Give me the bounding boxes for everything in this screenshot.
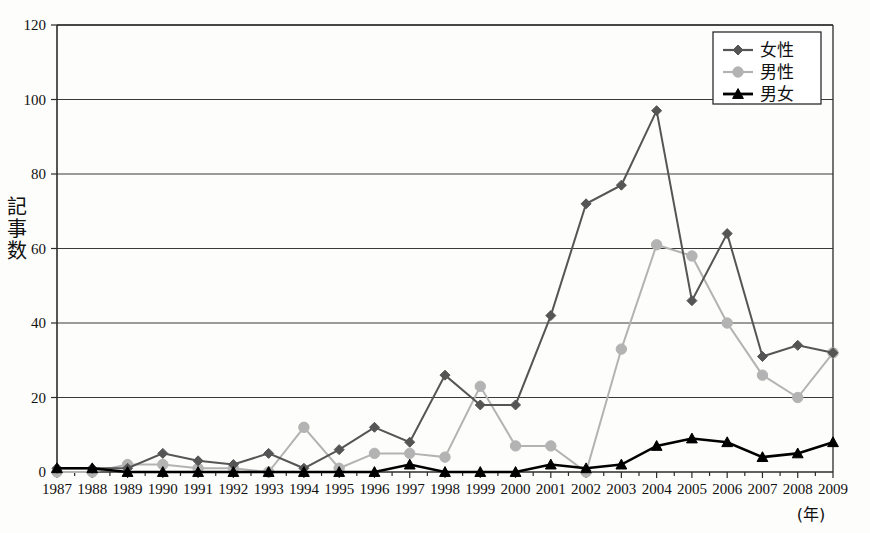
marker-女性-20 xyxy=(757,352,767,362)
marker-女性-21 xyxy=(793,340,803,350)
x-tick-label-2006: 2006 xyxy=(712,481,743,497)
marker-女性-6 xyxy=(264,448,274,458)
x-tick-label-1993: 1993 xyxy=(254,481,284,497)
x-tick-label-1997: 1997 xyxy=(395,481,426,497)
marker-女性-14 xyxy=(546,311,556,321)
y-tick-label-100: 100 xyxy=(24,92,47,108)
x-tick-label-1998: 1998 xyxy=(430,481,460,497)
x-axis-unit-label: (年) xyxy=(797,505,825,524)
x-tick-label-1989: 1989 xyxy=(113,481,143,497)
marker-男性-18 xyxy=(687,251,697,261)
marker-女性-8 xyxy=(334,445,344,455)
y-tick-label-0: 0 xyxy=(39,464,47,480)
y-tick-label-120: 120 xyxy=(24,17,47,33)
marker-女性-3 xyxy=(158,448,168,458)
series-line-女性 xyxy=(57,111,833,469)
legend-label-男女: 男女 xyxy=(760,84,794,104)
marker-女性-19 xyxy=(722,229,732,239)
marker-女性-13 xyxy=(511,400,521,410)
marker-男性-11 xyxy=(440,452,450,462)
marker-男性-13 xyxy=(510,441,520,451)
marker-女性-16 xyxy=(616,180,626,190)
x-tick-label-2003: 2003 xyxy=(606,481,636,497)
legend: 女性男性男女 xyxy=(713,32,821,104)
marker-女性-18 xyxy=(687,296,697,306)
marker-男性-9 xyxy=(369,448,379,458)
marker-男性-14 xyxy=(546,441,556,451)
marker-男性-17 xyxy=(651,240,661,250)
series-line-男性 xyxy=(57,245,833,472)
x-tick-label-1999: 1999 xyxy=(465,481,495,497)
x-tick-label-2004: 2004 xyxy=(642,481,673,497)
x-tick-label-2009: 2009 xyxy=(818,481,848,497)
marker-男性-21 xyxy=(793,392,803,402)
x-tick-label-1995: 1995 xyxy=(324,481,354,497)
x-tick-label-2008: 2008 xyxy=(783,481,813,497)
x-tick-label-2005: 2005 xyxy=(677,481,707,497)
x-tick-label-1994: 1994 xyxy=(289,481,320,497)
marker-男性-10 xyxy=(405,448,415,458)
x-tick-label-1987: 1987 xyxy=(42,481,73,497)
marker-女性-17 xyxy=(652,106,662,116)
x-tick-label-1992: 1992 xyxy=(218,481,248,497)
marker-男性-legend xyxy=(733,67,743,77)
x-tick-label-2007: 2007 xyxy=(747,481,778,497)
series-女性 xyxy=(52,106,838,474)
marker-男性-12 xyxy=(475,381,485,391)
y-tick-label-40: 40 xyxy=(31,315,46,331)
legend-label-女性: 女性 xyxy=(760,40,794,60)
marker-男性-20 xyxy=(757,370,767,380)
x-tick-label-2001: 2001 xyxy=(536,481,566,497)
y-tick-label-60: 60 xyxy=(31,241,46,257)
legend-label-男性: 男性 xyxy=(760,62,794,82)
marker-女性-10 xyxy=(405,437,415,447)
marker-男性-19 xyxy=(722,318,732,328)
y-tick-label-20: 20 xyxy=(31,390,46,406)
marker-男女-22 xyxy=(828,437,839,447)
marker-女性-9 xyxy=(369,422,379,432)
marker-男性-7 xyxy=(299,422,309,432)
marker-女性-15 xyxy=(581,199,591,209)
chart-figure: 記 事 数 0204060801001201987198819891990199… xyxy=(0,0,870,533)
x-tick-label-2000: 2000 xyxy=(501,481,531,497)
x-tick-label-2002: 2002 xyxy=(571,481,601,497)
x-tick-label-1988: 1988 xyxy=(77,481,107,497)
line-chart-plot: 0204060801001201987198819891990199119921… xyxy=(0,0,870,533)
x-tick-label-1996: 1996 xyxy=(359,481,390,497)
x-tick-label-1991: 1991 xyxy=(183,481,213,497)
x-tick-label-1990: 1990 xyxy=(148,481,178,497)
y-tick-label-80: 80 xyxy=(31,166,46,182)
marker-男性-16 xyxy=(616,344,626,354)
